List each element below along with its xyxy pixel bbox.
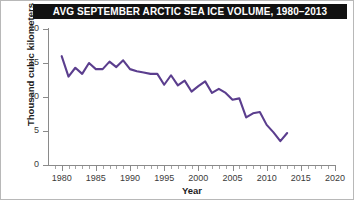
y-tick-label: 20 bbox=[0, 23, 39, 33]
x-tick-mark-minor bbox=[110, 166, 111, 169]
y-tick-label: 15 bbox=[0, 57, 39, 67]
x-tick-mark-minor bbox=[315, 166, 316, 169]
y-tick-label: 5 bbox=[0, 125, 39, 135]
x-tick-mark-major bbox=[164, 166, 165, 171]
y-tick-mark bbox=[43, 131, 48, 132]
chart-title-banner: AVG SEPTEMBER ARCTIC SEA ICE VOLUME, 198… bbox=[33, 4, 347, 19]
y-axis-title: Thousand cubic kilometers bbox=[25, 0, 36, 140]
y-tick-label: 0 bbox=[0, 159, 39, 169]
x-tick-mark-major bbox=[130, 166, 131, 171]
x-tick-mark-minor bbox=[75, 166, 76, 169]
x-tick-mark-minor bbox=[55, 166, 56, 169]
x-tick-mark-minor bbox=[89, 166, 90, 169]
y-tick-label: 10 bbox=[0, 91, 39, 101]
x-tick-mark-minor bbox=[239, 166, 240, 169]
x-tick-mark-minor bbox=[246, 166, 247, 169]
y-tick-mark bbox=[43, 165, 48, 166]
x-tick-mark-minor bbox=[151, 166, 152, 169]
x-tick-mark-minor bbox=[185, 166, 186, 169]
x-tick-mark-minor bbox=[260, 166, 261, 169]
x-tick-mark-minor bbox=[205, 166, 206, 169]
x-tick-mark-minor bbox=[280, 166, 281, 169]
x-tick-mark-minor bbox=[274, 166, 275, 169]
x-tick-mark-minor bbox=[219, 166, 220, 169]
x-tick-mark-major bbox=[301, 166, 302, 171]
x-tick-mark-major bbox=[62, 166, 63, 171]
x-tick-mark-minor bbox=[157, 166, 158, 169]
x-tick-label: 2020 bbox=[315, 173, 354, 183]
x-tick-mark-minor bbox=[82, 166, 83, 169]
x-tick-mark-minor bbox=[328, 166, 329, 169]
x-tick-mark-minor bbox=[294, 166, 295, 169]
x-tick-mark-minor bbox=[123, 166, 124, 169]
x-tick-mark-minor bbox=[171, 166, 172, 169]
x-tick-mark-minor bbox=[103, 166, 104, 169]
x-tick-mark-minor bbox=[69, 166, 70, 169]
x-tick-mark-minor bbox=[212, 166, 213, 169]
x-tick-mark-major bbox=[267, 166, 268, 171]
x-tick-mark-major bbox=[96, 166, 97, 171]
x-tick-mark-minor bbox=[287, 166, 288, 169]
x-tick-mark-minor bbox=[144, 166, 145, 169]
page-title: AVG SEPTEMBER ARCTIC SEA ICE VOLUME, 198… bbox=[53, 6, 327, 17]
x-tick-mark-minor bbox=[192, 166, 193, 169]
x-tick-mark-minor bbox=[308, 166, 309, 169]
x-tick-mark-minor bbox=[137, 166, 138, 169]
x-tick-mark-minor bbox=[116, 166, 117, 169]
y-tick-mark bbox=[43, 63, 48, 64]
x-tick-mark-minor bbox=[226, 166, 227, 169]
sea-ice-volume-line bbox=[62, 56, 288, 141]
x-tick-mark-minor bbox=[253, 166, 254, 169]
x-tick-mark-minor bbox=[321, 166, 322, 169]
chart-figure: AVG SEPTEMBER ARCTIC SEA ICE VOLUME, 198… bbox=[0, 0, 354, 200]
x-axis-title: Year bbox=[48, 185, 336, 196]
x-tick-mark-major bbox=[335, 166, 336, 171]
y-tick-mark bbox=[43, 29, 48, 30]
x-tick-mark-minor bbox=[178, 166, 179, 169]
y-tick-mark bbox=[43, 97, 48, 98]
y-axis-line bbox=[48, 28, 49, 166]
x-tick-mark-major bbox=[198, 166, 199, 171]
x-tick-mark-major bbox=[233, 166, 234, 171]
